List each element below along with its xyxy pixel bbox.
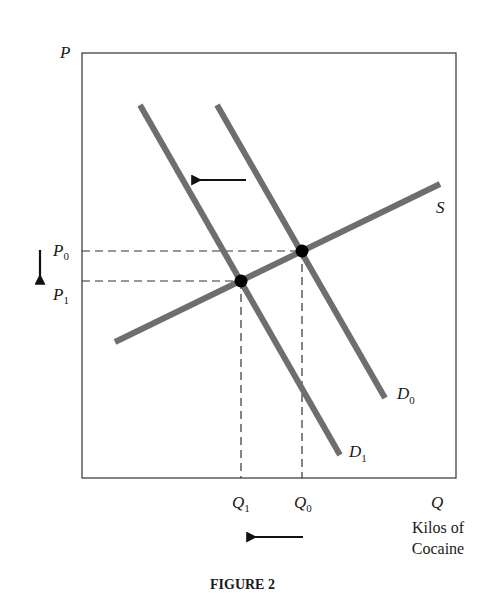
d0-label: D0 <box>396 384 415 406</box>
x-axis-desc-line2: Cocaine <box>412 540 464 557</box>
y-axis-label: P <box>59 43 70 62</box>
figure-caption: FIGURE 2 <box>210 577 275 592</box>
q0-label: Q0 <box>294 493 312 514</box>
equilibrium-point-e0 <box>296 245 309 258</box>
equilibrium-point-e1 <box>235 275 248 288</box>
p1-label: P1 <box>52 285 69 306</box>
guide-lines <box>82 251 302 478</box>
p0-label: P0 <box>52 241 69 262</box>
x-axis-label: Q <box>431 493 443 512</box>
supply-demand-chart: P S D0 D1 P0 P1 Q1 Q0 Q Kilos of Cocaine… <box>0 0 492 615</box>
supply-label: S <box>436 198 445 217</box>
q1-label: Q1 <box>232 493 250 514</box>
d1-label: D1 <box>348 442 367 464</box>
x-axis-desc-line1: Kilos of <box>412 519 465 536</box>
